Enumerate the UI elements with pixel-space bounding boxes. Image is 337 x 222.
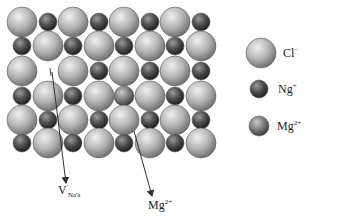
na-ion (13, 134, 31, 152)
na-ion (13, 37, 31, 55)
na-ion (192, 111, 210, 129)
cl-ion (33, 31, 63, 61)
cl-ion (7, 7, 37, 37)
cl-ion (135, 81, 165, 111)
na-ion (166, 87, 184, 105)
na-ion (39, 111, 57, 129)
cl-ion (84, 128, 114, 158)
legend-swatch-cl (246, 38, 276, 68)
legend-label-na: Ng+ (278, 83, 297, 95)
cl-ion (160, 7, 190, 37)
na-ion (192, 13, 210, 31)
cl-ion (135, 31, 165, 61)
na-ion (141, 13, 159, 31)
na-ion (90, 13, 108, 31)
cl-ion (58, 7, 88, 37)
na-ion (39, 13, 57, 31)
cl-ion (186, 81, 216, 111)
na-ion (64, 37, 82, 55)
cl-ion (33, 81, 63, 111)
mg-substitution-label: Mg2+ (148, 199, 172, 211)
lattice-diagram: V'Na'a Mg2+ Cl− Ng+ Mg2+ (0, 0, 337, 222)
cl-ion (58, 105, 88, 135)
na-ion (166, 134, 184, 152)
cl-ion (186, 128, 216, 158)
vacancy-label: V'Na'a (58, 184, 80, 199)
cl-ion (33, 128, 63, 158)
na-ion (90, 62, 108, 80)
cl-ion (186, 31, 216, 61)
na-ion (64, 134, 82, 152)
na-ion (141, 111, 159, 129)
cl-ion (109, 56, 139, 86)
na-ion (90, 111, 108, 129)
na-ion (192, 62, 210, 80)
cl-ion (160, 56, 190, 86)
na-ion (141, 62, 159, 80)
cl-ion (58, 56, 88, 86)
cl-ion (7, 105, 37, 135)
ion-lattice (7, 7, 216, 158)
lattice-svg (0, 0, 337, 222)
cl-ion (84, 81, 114, 111)
cl-ion (109, 105, 139, 135)
na-ion (115, 134, 133, 152)
na-ion (64, 87, 82, 105)
vacancy-marker (50, 68, 51, 76)
legend-label-cl: Cl− (283, 47, 298, 59)
na-ion (166, 37, 184, 55)
cl-ion (109, 7, 139, 37)
mg-ion (114, 86, 134, 106)
legend-label-mg: Mg2+ (277, 120, 301, 132)
legend-ions (246, 38, 276, 136)
cl-ion (160, 105, 190, 135)
na-ion (115, 37, 133, 55)
legend-swatch-na (250, 80, 268, 98)
na-ion (13, 87, 31, 105)
cl-ion (7, 56, 37, 86)
legend-swatch-mg (249, 116, 269, 136)
cl-ion (84, 31, 114, 61)
cl-ion (135, 128, 165, 158)
